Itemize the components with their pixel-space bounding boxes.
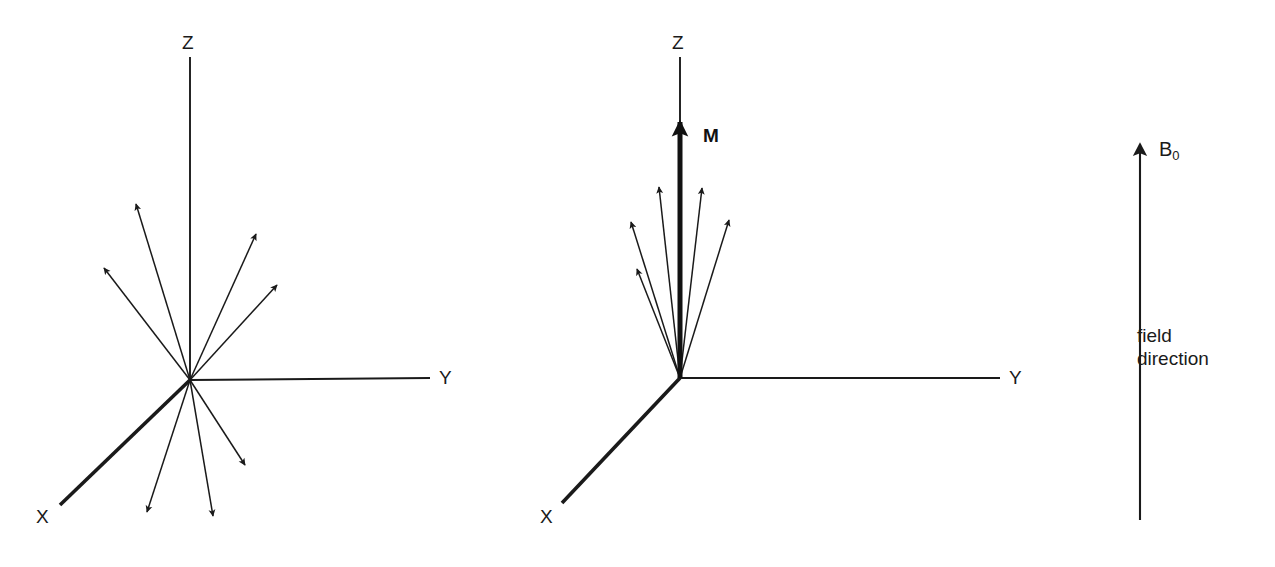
spin-vector xyxy=(190,380,245,465)
b0-field-label: B0 xyxy=(1159,139,1180,159)
diagram-canvas xyxy=(0,0,1275,567)
z-axis-label-right: Z xyxy=(672,33,684,52)
spin-vector xyxy=(190,380,213,516)
z-axis-label-left: Z xyxy=(182,33,194,52)
field-direction-caption-line-1: field xyxy=(1137,324,1209,347)
aligned-orientation-panel xyxy=(562,57,1000,503)
b0-field-label-subscript: 0 xyxy=(1172,148,1179,163)
spin-vector xyxy=(680,220,729,378)
y-axis-label-left: Y xyxy=(439,368,452,387)
y-axis-label-right: Y xyxy=(1009,368,1022,387)
x-axis-left xyxy=(60,380,190,505)
spin-vector xyxy=(136,204,190,380)
field-direction-caption-line-2: direction xyxy=(1137,347,1209,370)
b0-field-label-base: B xyxy=(1159,138,1172,160)
y-axis-left xyxy=(190,378,430,380)
x-axis-label-left: X xyxy=(36,507,49,526)
spin-vector xyxy=(631,222,680,378)
field-direction-caption: field direction xyxy=(1137,324,1209,370)
x-axis-label-right: X xyxy=(540,507,553,526)
spin-vector xyxy=(190,285,277,380)
spin-vector xyxy=(680,188,702,378)
net-magnetization-label: M xyxy=(703,126,719,145)
spin-vector xyxy=(190,234,256,380)
x-axis-right xyxy=(562,378,680,503)
spin-vector xyxy=(104,268,190,380)
random-orientation-panel xyxy=(60,57,430,516)
mri-spin-diagram: Z Y X Z Y X M B0 field direction xyxy=(0,0,1275,567)
